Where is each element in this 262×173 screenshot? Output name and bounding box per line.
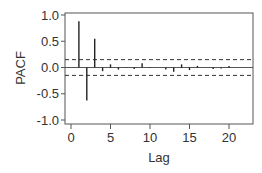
x-tick-label: 20 (222, 130, 236, 145)
pacf-chart: 1.00.50.0-0.5-1.0 05101520 PACF Lag (0, 0, 262, 173)
x-tick-label: 10 (143, 130, 157, 145)
x-axis: 05101520 (67, 124, 236, 145)
plot-frame (65, 13, 253, 124)
y-tick-label: 0.5 (41, 34, 59, 49)
pacf-stems (79, 21, 229, 100)
x-tick-label: 0 (67, 130, 74, 145)
y-axis-title: PACF (13, 51, 28, 85)
y-tick-label: 0.0 (41, 60, 59, 75)
y-axis: 1.00.50.0-0.5-1.0 (37, 8, 65, 128)
x-tick-label: 15 (182, 130, 196, 145)
y-tick-label: -1.0 (37, 113, 59, 128)
y-tick-label: 1.0 (41, 8, 59, 23)
y-tick-label: -0.5 (37, 86, 59, 101)
x-axis-title: Lag (148, 150, 170, 165)
x-tick-label: 5 (107, 130, 114, 145)
